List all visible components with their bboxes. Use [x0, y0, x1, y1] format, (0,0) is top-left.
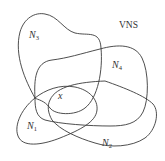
vns-title: VNS — [119, 20, 138, 30]
neighborhood-n1-region — [17, 86, 97, 144]
point-x-label: x — [57, 90, 63, 101]
neighborhood-n3-label: N3 — [28, 29, 39, 41]
n1-index: 1 — [34, 125, 37, 132]
neighborhood-n4-label: N4 — [111, 59, 123, 71]
n4-index: 4 — [119, 64, 123, 71]
n2-index: 2 — [109, 142, 112, 149]
neighborhood-n2-label: N2 — [101, 137, 112, 149]
neighborhood-n1-label: N1 — [26, 120, 37, 132]
neighborhood-n4-region — [35, 46, 148, 126]
vns-neighborhood-diagram: VNS x N3 N4 N1 N2 — [0, 0, 165, 161]
n3-index: 3 — [36, 34, 39, 41]
